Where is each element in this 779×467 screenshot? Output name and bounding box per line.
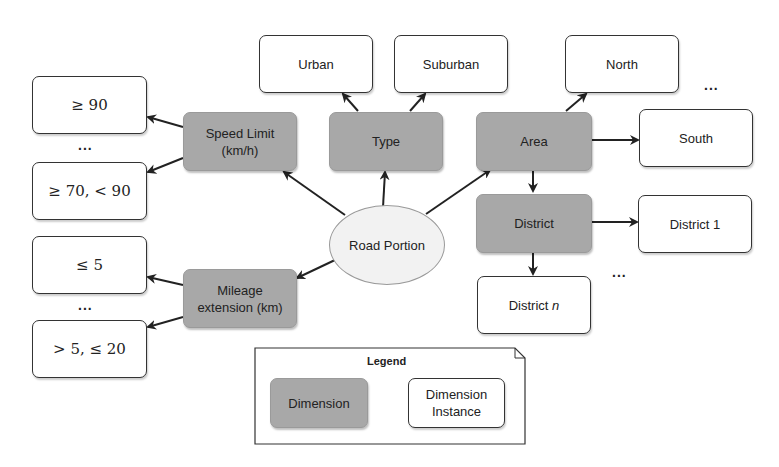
instance-mileage-5-20[interactable]: > 5, ≤ 20 — [32, 320, 147, 378]
legend-dimension-swatch: Dimension — [270, 378, 368, 428]
mileage-5-20-label: > 5, ≤ 20 — [53, 341, 126, 358]
instance-district-1[interactable]: District 1 — [638, 195, 752, 253]
dimension-area[interactable]: Area — [476, 112, 592, 171]
instance-speed-ge90[interactable]: ≥ 90 — [32, 76, 147, 134]
ellipsis-district: ... — [612, 267, 627, 277]
dimension-district[interactable]: District — [476, 194, 592, 253]
district-n-prefix: District — [509, 298, 552, 313]
ellipsis-speed: ... — [78, 140, 93, 150]
road-portion-node[interactable]: Road Portion — [329, 205, 445, 285]
urban-label: Urban — [298, 56, 333, 73]
instance-mileage-le5[interactable]: ≤ 5 — [32, 236, 147, 294]
speed-limit-line2: (km/h) — [222, 142, 259, 159]
speed-70-90-label: ≥ 70, < 90 — [48, 183, 130, 200]
legend-dimension-label: Dimension — [288, 395, 349, 412]
legend-instance-swatch: Dimension Instance — [408, 378, 505, 428]
ellipsis-area: ... — [704, 80, 719, 90]
type-label: Type — [372, 133, 400, 150]
legend-title: Legend — [367, 355, 406, 367]
instance-district-n[interactable]: District n — [477, 276, 591, 334]
dimension-type[interactable]: Type — [329, 112, 443, 171]
north-label: North — [606, 56, 638, 73]
speed-limit-line1: Speed Limit — [206, 125, 275, 142]
speed-ge90-label: ≥ 90 — [71, 97, 107, 114]
instance-north[interactable]: North — [565, 35, 679, 93]
instance-urban[interactable]: Urban — [259, 35, 373, 93]
legend-instance-line2: Instance — [432, 403, 481, 420]
road-portion-label: Road Portion — [349, 238, 425, 253]
instance-suburban[interactable]: Suburban — [394, 35, 508, 93]
district-label: District — [514, 215, 554, 232]
dimension-mileage[interactable]: Mileage extension (km) — [183, 269, 297, 328]
dimension-speed-limit[interactable]: Speed Limit (km/h) — [183, 112, 297, 171]
instance-speed-70-90[interactable]: ≥ 70, < 90 — [32, 162, 147, 220]
mileage-line1: Mileage — [217, 282, 263, 299]
ellipsis-mileage: ... — [78, 300, 93, 310]
district-1-label: District 1 — [670, 216, 721, 233]
suburban-label: Suburban — [423, 56, 479, 73]
edge-road-speed — [284, 172, 345, 215]
south-label: South — [679, 130, 713, 147]
instance-south[interactable]: South — [639, 109, 753, 167]
legend-instance-line1: Dimension — [426, 386, 487, 403]
district-n-variable: n — [552, 298, 559, 313]
area-label: Area — [520, 133, 547, 150]
mileage-le5-label: ≤ 5 — [76, 257, 103, 274]
district-n-label: District n — [509, 297, 560, 314]
mileage-line2: extension (km) — [197, 299, 282, 316]
